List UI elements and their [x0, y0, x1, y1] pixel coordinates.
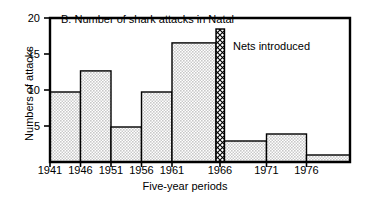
- bar-1946: [81, 71, 112, 162]
- chart-title: B. Number of shark attacks in Natal: [61, 13, 234, 25]
- y-tick-label-15: 15: [18, 49, 40, 60]
- bar-nets-introduced-marker: [216, 29, 225, 162]
- bar-1941: [50, 92, 81, 162]
- bar-1971: [267, 134, 307, 162]
- x-tick-label-1976: 1976: [290, 165, 324, 176]
- x-axis-label: Five-year periods: [0, 181, 370, 192]
- bar-1956: [142, 92, 173, 162]
- y-tick-label-20: 20: [18, 13, 40, 24]
- x-tick-label-1946: 1946: [64, 165, 98, 176]
- y-tick-label-5: 5: [18, 121, 40, 132]
- bar-1966: [225, 141, 267, 162]
- bar-1961: [172, 43, 216, 162]
- x-tick-label-1951: 1951: [94, 165, 128, 176]
- x-tick-label-1956: 1956: [125, 165, 159, 176]
- nets-introduced-annotation: Nets introduced: [233, 40, 310, 52]
- x-tick-label-1961: 1961: [155, 165, 189, 176]
- y-tick-label-10: 10: [18, 85, 40, 96]
- x-tick-label-1966: 1966: [203, 165, 237, 176]
- x-tick-label-1971: 1971: [250, 165, 284, 176]
- chart-figure: Numbers of attacks 20 15 10 5 1941 1946 …: [0, 0, 370, 204]
- x-tick-label-1941: 1941: [33, 165, 67, 176]
- bar-1951: [111, 127, 142, 162]
